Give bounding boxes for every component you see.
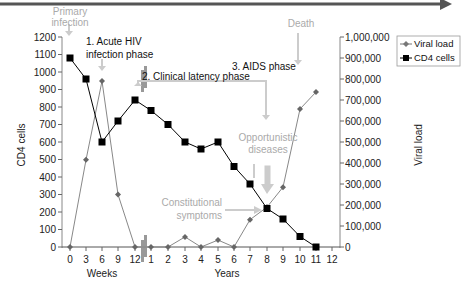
viral-load-series [67, 78, 319, 250]
y-axis-label-left: CD4 cells [16, 124, 27, 167]
left-tick-label: 500 [39, 154, 56, 165]
x-tick-label: 1 [148, 254, 154, 265]
x-tick-labels: 036912123456789101112 [67, 247, 338, 265]
left-tick-label: 1000 [34, 67, 57, 78]
cd4-point [198, 146, 205, 153]
x-axis-label-weeks: Weeks [87, 268, 117, 279]
left-tick-label: 200 [39, 207, 56, 218]
cd4-point [67, 55, 74, 62]
cd4-point [264, 205, 271, 212]
x-tick-label: 6 [99, 254, 105, 265]
left-tick-label: 800 [39, 102, 56, 113]
cd4-point [165, 121, 172, 128]
x-tick-label: 12 [129, 254, 141, 265]
viral-load-point [165, 244, 171, 250]
cd4-point [148, 107, 155, 114]
left-tick-label: 300 [39, 189, 56, 200]
cd4-point [115, 118, 122, 125]
cd4-point [247, 181, 254, 188]
annotation-latency-phase: 2. Clinical latency phase [142, 71, 250, 82]
right-tick-label: 900,000 [345, 53, 382, 64]
annotation-death: Death [288, 18, 315, 29]
viral-load-point [67, 244, 73, 250]
viral-load-point [182, 234, 188, 240]
axis-break-marker [141, 66, 147, 262]
right-tick-label: 800,000 [345, 74, 382, 85]
x-tick-label: 3 [83, 254, 89, 265]
cd4-point [99, 139, 106, 146]
annotation-opportunistic-line2: diseases [248, 144, 287, 155]
right-tick-label: 400,000 [345, 158, 382, 169]
hiv-progression-chart: 0100200300400500600700800900100011001200… [0, 0, 462, 285]
right-tick-label: 0 [345, 242, 351, 253]
y-axis-label-right: Viral load [413, 124, 424, 166]
right-tick-label: 300,000 [345, 179, 382, 190]
viral-load-point [115, 192, 121, 198]
left-tick-label: 0 [50, 242, 56, 253]
x-tick-label: 11 [311, 254, 322, 265]
cd4-point [132, 97, 139, 104]
x-tick-label: 7 [247, 254, 253, 265]
right-tick-label: 100,000 [345, 221, 382, 232]
viral-load-point [215, 237, 221, 243]
left-tick-label: 400 [39, 172, 56, 183]
left-tick-label: 900 [39, 84, 56, 95]
x-tick-label: 6 [231, 254, 237, 265]
left-tick-label: 700 [39, 119, 56, 130]
left-tick-label: 100 [39, 224, 56, 235]
x-tick-label: 4 [198, 254, 204, 265]
x-tick-label: 10 [294, 254, 306, 265]
cd4-point [231, 163, 238, 170]
annotation-acute-phase-line1: 1. Acute HIV [86, 36, 142, 47]
cd4-point [313, 244, 320, 251]
x-tick-label: 12 [326, 254, 338, 265]
left-tick-label: 600 [39, 137, 56, 148]
cd4-point [83, 76, 90, 83]
legend-cd4-cells: CD4 cells [414, 52, 455, 63]
right-tick-label: 1,000,000 [345, 32, 390, 43]
legend-square-icon [403, 55, 409, 61]
left-tick-label: 1100 [34, 49, 56, 60]
viral-load-point [132, 244, 138, 250]
annotation-primary-infection-line2: infection [51, 17, 88, 28]
annotation-constitutional-line1: Constitutional [161, 197, 222, 208]
cd4-point [297, 233, 304, 240]
x-tick-label: 2 [165, 254, 171, 265]
x-tick-label: 0 [67, 254, 73, 265]
annotation-primary-infection-line1: Primary [53, 6, 87, 17]
x-tick-label: 8 [264, 254, 270, 265]
viral-load-point [148, 244, 154, 250]
cd4-point [215, 139, 222, 146]
annotation-constitutional-line2: symptoms [176, 210, 222, 221]
x-tick-label: 5 [215, 254, 221, 265]
legend: Viral load CD4 cells [397, 36, 460, 66]
left-tick-label: 1200 [34, 32, 57, 43]
cd4-point [280, 216, 287, 223]
right-tick-label: 700,000 [345, 95, 382, 106]
cd4-point [182, 139, 189, 146]
legend-viral-load: Viral load [414, 38, 453, 49]
viral-load-point [83, 157, 89, 163]
right-tick-labels: 0100,000200,000300,000400,000500,000600,… [340, 32, 390, 253]
x-tick-label: 3 [182, 254, 188, 265]
x-tick-label: 9 [280, 254, 286, 265]
left-tick-labels: 0100200300400500600700800900100011001200 [34, 32, 62, 253]
right-tick-label: 600,000 [345, 116, 382, 127]
viral-load-point [99, 78, 105, 84]
x-axis-label-years: Years [214, 268, 239, 279]
annotation-aids-phase: 3. AIDS phase [232, 61, 296, 72]
annotation-opportunistic-line1: Opportunistic [239, 132, 298, 143]
x-tick-label: 9 [115, 254, 121, 265]
viral-load-point [231, 244, 237, 250]
annotation-acute-phase-line2: infection phase [86, 49, 154, 60]
viral-load-point [198, 244, 204, 250]
right-tick-label: 500,000 [345, 137, 382, 148]
right-tick-label: 200,000 [345, 200, 382, 211]
